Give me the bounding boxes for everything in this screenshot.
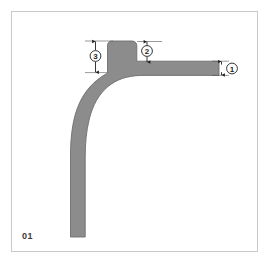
callout-3-number: 3 bbox=[93, 52, 98, 61]
callout-1-number: 1 bbox=[230, 65, 235, 74]
profile-cross-section-shape bbox=[71, 41, 220, 237]
profile-drawing-svg: 3 2 1 bbox=[0, 0, 269, 263]
profile-shape-group bbox=[71, 41, 220, 237]
callout-1-group: 1 bbox=[222, 62, 238, 75]
callout-3-group: 3 bbox=[90, 42, 101, 73]
technical-drawing-figure: 3 2 1 01 bbox=[0, 0, 269, 263]
plate-number-label: 01 bbox=[22, 232, 33, 241]
callout-2-group: 2 bbox=[142, 42, 153, 62]
callout-2-number: 2 bbox=[145, 47, 150, 56]
